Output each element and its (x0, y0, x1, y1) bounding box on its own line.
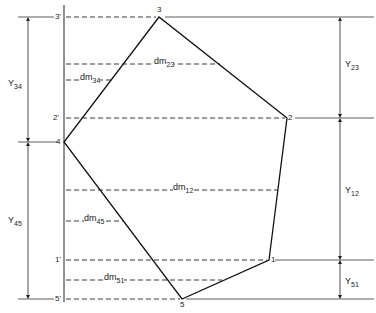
label-Y34: Y34 (8, 79, 22, 90)
label-Y45: Y45 (8, 216, 22, 227)
label-Y12: Y12 (345, 186, 359, 197)
label-Y23: Y23 (345, 60, 359, 71)
label-dm51: dm51 (104, 273, 124, 284)
label-Y51: Y51 (345, 277, 359, 288)
projection-label-3p: 3' (55, 13, 61, 21)
projection-label-5p: 5' (55, 295, 61, 303)
vertex-label-2: 2 (288, 114, 292, 122)
vertex-label-1: 1 (271, 256, 275, 264)
label-dm23: dm23 (154, 57, 174, 68)
vertex-label-5: 5 (180, 301, 184, 309)
vertex-label-3: 3 (157, 6, 161, 14)
polygon-diagram (0, 0, 376, 313)
projection-label-2p: 2' (53, 114, 59, 122)
projection-label-1p: 1' (55, 256, 61, 264)
label-dm12: dm12 (173, 183, 193, 194)
label-dm45: dm45 (84, 214, 104, 225)
vertex-label-4: 4 (56, 138, 60, 146)
label-dm34: dm34 (80, 73, 100, 84)
polygon-outline (64, 17, 287, 299)
